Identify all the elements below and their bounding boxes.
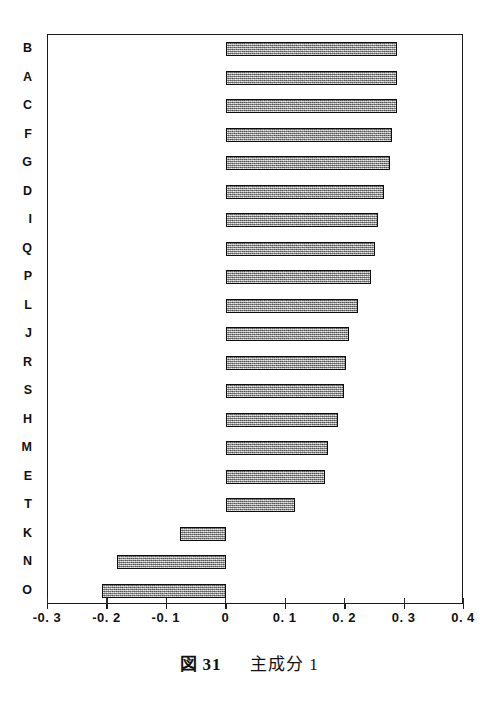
y-axis-label-h: H (0, 405, 40, 434)
x-axis-tick-labels: -0. 3-0. 2-0. 100. 10. 20. 30. 4 (0, 610, 499, 632)
x-tick-label: -0. 2 (76, 610, 136, 625)
bar-row (48, 406, 462, 435)
bars-layer (48, 35, 462, 603)
figure-caption: 図 31 主成分 1 (0, 650, 499, 675)
y-axis-label-b: B (0, 34, 40, 63)
bar-k (180, 527, 226, 541)
bar-b (226, 42, 397, 56)
bar-e (226, 470, 325, 484)
bar-row (48, 206, 462, 235)
y-axis-label-q: Q (0, 234, 40, 263)
x-tick-label: 0. 4 (433, 610, 493, 625)
x-tick-label: 0. 1 (255, 610, 315, 625)
bar-a (226, 71, 397, 85)
bar-row (48, 92, 462, 121)
y-axis-label-e: E (0, 462, 40, 491)
x-tick-label: 0. 3 (374, 610, 434, 625)
bar-r (226, 356, 346, 370)
bar-s (226, 384, 344, 398)
bar-row (48, 235, 462, 264)
x-tick-label: 0. 2 (314, 610, 374, 625)
y-axis-labels: BACFGDIQPLJRSHMETKNO (0, 34, 40, 604)
bar-n (117, 555, 226, 569)
figure-container: BACFGDIQPLJRSHMETKNO -0. 3-0. 2-0. 100. … (0, 0, 499, 702)
bar-row (48, 35, 462, 64)
bar-row (48, 178, 462, 207)
y-axis-label-c: C (0, 91, 40, 120)
bar-row (48, 263, 462, 292)
y-axis-label-f: F (0, 120, 40, 149)
bar-c (226, 99, 397, 113)
bar-row (48, 377, 462, 406)
bar-m (226, 441, 328, 455)
caption-figure-word: 図 (180, 655, 198, 674)
y-axis-label-o: O (0, 576, 40, 605)
bar-l (226, 299, 358, 313)
bar-row (48, 491, 462, 520)
caption-figure-number: 31 (203, 655, 222, 674)
x-tick-label: -0. 3 (17, 610, 77, 625)
bar-row (48, 520, 462, 549)
bar-f (226, 128, 392, 142)
y-axis-label-s: S (0, 376, 40, 405)
x-tick (404, 604, 405, 609)
bar-g (226, 156, 390, 170)
x-tick (47, 604, 48, 609)
bar-row (48, 121, 462, 150)
y-axis-label-k: K (0, 519, 40, 548)
y-axis-label-l: L (0, 291, 40, 320)
y-axis-label-m: M (0, 433, 40, 462)
bar-row (48, 349, 462, 378)
y-axis-label-j: J (0, 319, 40, 348)
x-tick (225, 604, 226, 609)
x-tick-label: -0. 1 (136, 610, 196, 625)
y-axis-label-t: T (0, 490, 40, 519)
y-axis-label-i: I (0, 205, 40, 234)
x-tick (463, 604, 464, 609)
bar-j (226, 327, 348, 341)
x-tick (166, 604, 167, 609)
x-tick (106, 604, 107, 609)
bar-row (48, 434, 462, 463)
y-axis-label-d: D (0, 177, 40, 206)
x-axis-ticks-inner (47, 596, 463, 604)
bar-p (226, 270, 371, 284)
x-tick (344, 604, 345, 609)
bar-row (48, 548, 462, 577)
bar-row (48, 149, 462, 178)
bar-row (48, 320, 462, 349)
x-tick-label: 0 (195, 610, 255, 625)
bar-i (226, 213, 378, 227)
bar-h (226, 413, 338, 427)
bar-t (226, 498, 295, 512)
bar-row (48, 463, 462, 492)
y-axis-label-r: R (0, 348, 40, 377)
bar-q (226, 242, 375, 256)
y-axis-label-p: P (0, 262, 40, 291)
y-axis-label-a: A (0, 63, 40, 92)
bar-row (48, 64, 462, 93)
y-axis-label-n: N (0, 547, 40, 576)
y-axis-label-g: G (0, 148, 40, 177)
caption-title: 主成分 1 (250, 655, 319, 674)
bar-d (226, 185, 383, 199)
plot-area (47, 34, 463, 604)
x-tick (285, 604, 286, 609)
bar-row (48, 292, 462, 321)
